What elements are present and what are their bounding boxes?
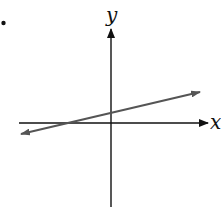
bullet-marker <box>1 21 5 25</box>
x-axis-label: x <box>210 110 221 134</box>
coordinate-graph: y x <box>0 0 221 207</box>
y-axis-label: y <box>105 3 118 27</box>
